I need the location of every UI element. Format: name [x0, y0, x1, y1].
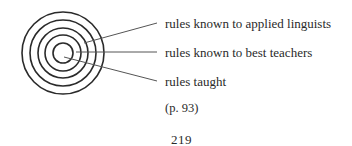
- page-number: 219: [171, 132, 192, 146]
- citation: (p. 93): [165, 100, 198, 116]
- ring-5: [53, 43, 73, 63]
- ring-1: [22, 12, 104, 94]
- label-best-teachers: rules known to best teachers: [165, 45, 312, 61]
- leader-line-applied-linguists: [84, 23, 157, 43]
- leader-line-rules-taught: [64, 57, 157, 81]
- ring-2: [30, 20, 96, 86]
- ring-4: [45, 35, 81, 71]
- label-applied-linguists: rules known to applied linguists: [165, 16, 331, 32]
- label-rules-taught: rules taught: [165, 74, 226, 90]
